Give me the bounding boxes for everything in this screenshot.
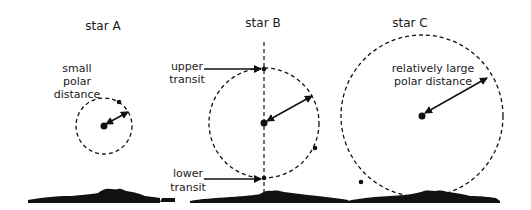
star-c-title: star C	[392, 16, 427, 30]
star-b-title: star B	[245, 16, 280, 30]
star-b-panel: star B upper transit lower transit	[160, 16, 348, 203]
star-c-panel: star C relatively large polar distance	[341, 16, 503, 206]
star-a-annotation-line-1: small	[62, 62, 91, 75]
star-b-horizon-fragment	[160, 198, 175, 202]
star-c-star-dot	[359, 180, 364, 185]
star-b-lower-transit-dot	[262, 176, 267, 181]
lower-transit-label-line-1: lower	[173, 167, 204, 180]
star-a-annotation-line-3: distance	[54, 88, 101, 101]
polar-distance-diagram: star A small polar distance star B upper…	[0, 0, 531, 210]
upper-transit-label-line-1: upper	[171, 60, 204, 73]
star-a-title: star A	[85, 19, 121, 33]
star-a-panel: star A small polar distance	[28, 19, 160, 203]
upper-transit-label-line-2: transit	[169, 73, 205, 86]
star-b-pole-dot	[261, 120, 268, 127]
star-b-star-dot	[313, 146, 318, 151]
star-b-polar-distance-arrow	[267, 96, 312, 121]
star-a-horizon-silhouette	[28, 189, 160, 203]
star-c-annotation-line-2: polar distance	[394, 75, 472, 88]
star-b-upper-transit-dot	[262, 67, 267, 72]
star-a-star-dot	[117, 100, 122, 105]
star-b-horizon-silhouette	[190, 191, 348, 203]
star-c-annotation-line-1: relatively large	[392, 62, 475, 75]
lower-transit-label-line-2: transit	[170, 181, 206, 194]
star-c-pole-dot	[419, 113, 426, 120]
star-a-polar-distance-arrow	[106, 112, 128, 124]
star-a-annotation-line-2: polar	[63, 75, 92, 88]
